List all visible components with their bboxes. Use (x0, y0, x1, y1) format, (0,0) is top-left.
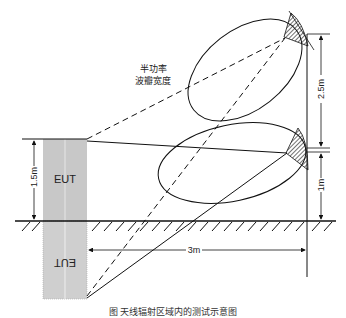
label-beamwidth-line1: 半功率 (140, 63, 167, 74)
label-eut-mirror: EUT (54, 257, 76, 269)
label-beamwidth-line2: 波瓣宽度 (135, 75, 171, 86)
lower-antenna (286, 128, 308, 170)
reflected-ray-upper (87, 38, 285, 296)
upper-antenna (284, 13, 308, 46)
reflected-ray-lower (87, 153, 287, 298)
label-distance: 3m (188, 245, 201, 255)
direct-ray-lower (87, 141, 287, 153)
label-eut: EUT (54, 173, 76, 185)
direct-ray-upper (87, 38, 285, 139)
label-lower-height: 1m (316, 179, 326, 192)
label-upper-height: 2.5m (316, 79, 326, 99)
figure-caption: 图 天线辐射区域内的测试示意图 (0, 305, 346, 318)
lower-beam-lobe (151, 110, 314, 216)
label-eut-height: 1.5m (29, 167, 39, 187)
